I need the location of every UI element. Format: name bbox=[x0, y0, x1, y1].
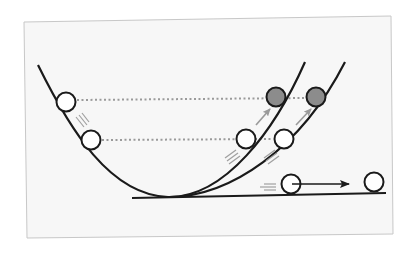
rolling-ball-diagram bbox=[0, 0, 414, 253]
ball-top-ramp1 bbox=[267, 88, 286, 107]
diagram-panel bbox=[24, 16, 393, 238]
ball-lower-ramp1 bbox=[237, 130, 256, 149]
ball-flat-end bbox=[365, 173, 384, 192]
ball-top-ramp2 bbox=[307, 88, 326, 107]
ball-start-left bbox=[57, 93, 76, 112]
ball-lower-ramp2 bbox=[275, 130, 294, 149]
ball-lower-left bbox=[82, 131, 101, 150]
